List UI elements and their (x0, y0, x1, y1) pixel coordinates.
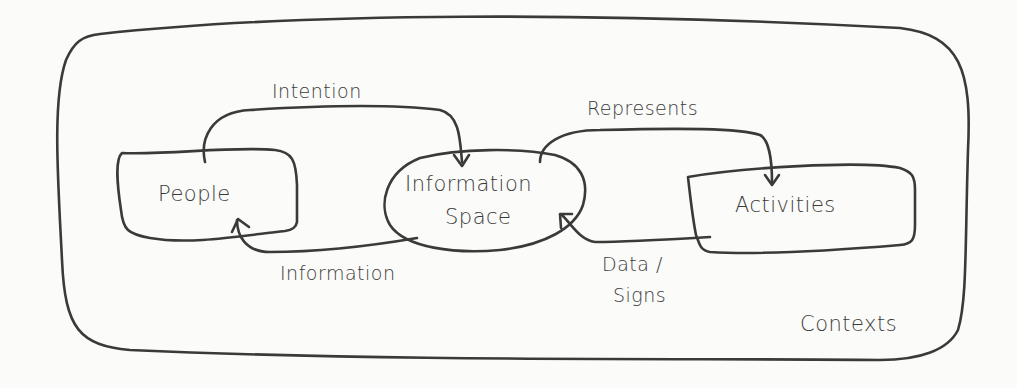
diagram-canvas: People Information Space Activities Inte… (0, 0, 1017, 388)
information-space-label-line2: Space (445, 205, 512, 229)
information-space-node-outline (385, 150, 586, 251)
contexts-container-label: Contexts (800, 312, 897, 336)
information-space-label-line1: Information (405, 172, 532, 196)
intention-edge (204, 106, 462, 162)
information-edge-label: Information (280, 262, 395, 284)
information-arrowhead (232, 219, 249, 232)
data-signs-edge-label-line1: Data / (602, 253, 663, 275)
data-signs-edge-label-line2: Signs (613, 284, 666, 306)
represents-edge-label: Represents (587, 97, 698, 119)
data-signs-edge (562, 215, 710, 242)
activities-node-label: Activities (735, 193, 836, 217)
represents-edge (540, 129, 772, 182)
intention-edge-label: Intention (272, 80, 362, 102)
people-node-label: People (158, 182, 231, 206)
